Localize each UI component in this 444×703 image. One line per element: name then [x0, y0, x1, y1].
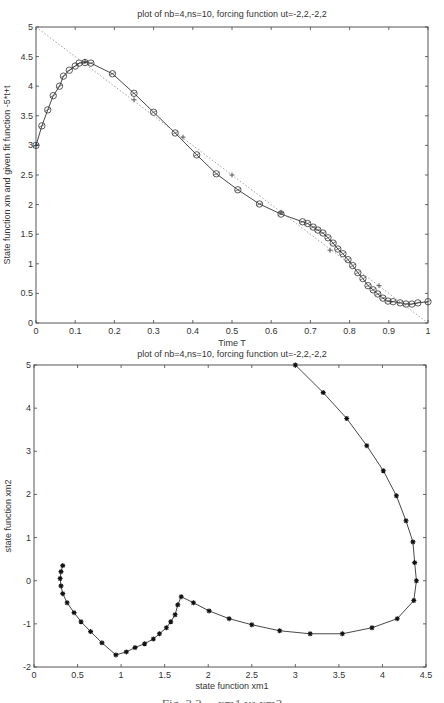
- star-marker: [277, 628, 282, 633]
- star-marker: [142, 641, 147, 646]
- star-marker: [191, 600, 196, 605]
- star-marker: [168, 619, 173, 624]
- star-marker: [60, 591, 65, 596]
- star-marker: [227, 616, 232, 621]
- plus-marker: [377, 283, 382, 288]
- star-marker: [308, 631, 313, 636]
- star-marker: [412, 560, 417, 565]
- plot1-x-label: Time T: [218, 338, 246, 348]
- x-tick-label: 0: [33, 326, 38, 336]
- time-series-plot: plot of nb=4,ns=10, forcing function ut=…: [2, 9, 431, 348]
- star-marker: [173, 612, 178, 617]
- plot1-title: plot of nb=4,ns=10, forcing function ut=…: [137, 9, 326, 19]
- star-marker: [151, 636, 156, 641]
- x-tick-label: 0.8: [343, 326, 356, 336]
- star-marker: [99, 640, 104, 645]
- circle-marker-slash: [151, 111, 157, 114]
- star-marker: [381, 468, 386, 473]
- series-line: [60, 365, 416, 655]
- x-tick-label: 1: [119, 670, 124, 680]
- star-marker: [65, 600, 70, 605]
- star-marker: [157, 631, 162, 636]
- plot1-y-ticks: 00.511.522.533.544.55: [20, 22, 428, 328]
- circle-marker-slash: [325, 236, 331, 239]
- x-tick-label: 0.6: [265, 326, 278, 336]
- star-marker: [59, 569, 64, 574]
- star-marker: [124, 649, 129, 654]
- x-tick-label: 1: [425, 326, 430, 336]
- y-tick-label: 4: [28, 81, 33, 91]
- y-tick-label: 0: [26, 576, 31, 586]
- circle-marker-slash: [350, 264, 356, 267]
- x-tick-label: 0.4: [187, 326, 200, 336]
- x-tick-label: 0.7: [304, 326, 317, 336]
- plot2-axes-box: [34, 365, 426, 667]
- y-tick-label: 4: [26, 403, 31, 413]
- star-marker: [410, 539, 415, 544]
- y-tick-label: 0.5: [20, 288, 33, 298]
- y-tick-label: 3: [28, 140, 33, 150]
- plot2-series: [58, 363, 419, 658]
- x-tick-label: 2.5: [246, 670, 259, 680]
- y-tick-label: 5: [28, 22, 33, 32]
- y-tick-label: 2.5: [20, 170, 33, 180]
- star-marker: [414, 578, 419, 583]
- y-tick-label: 3: [26, 446, 31, 456]
- x-tick-label: 4: [380, 670, 385, 680]
- plot2-y-label: state function xm2: [3, 479, 13, 552]
- y-tick-label: 1: [28, 259, 33, 269]
- plus-marker: [328, 248, 333, 253]
- star-marker: [59, 583, 64, 588]
- circle-marker-slash: [375, 292, 381, 295]
- circle-marker-slash: [335, 248, 341, 251]
- star-marker: [344, 416, 349, 421]
- plot2-y-ticks: -2-1012345: [23, 360, 426, 672]
- star-marker: [179, 594, 184, 599]
- circle-marker-slash: [66, 69, 72, 72]
- series-line: [36, 63, 428, 305]
- plus-marker: [34, 143, 39, 148]
- plot2-title: plot of nb=4,ns=10, forcing function ut=…: [137, 349, 326, 359]
- x-tick-label: 0.5: [71, 670, 84, 680]
- y-tick-label: 2: [28, 200, 33, 210]
- star-marker: [72, 610, 77, 615]
- star-marker: [394, 493, 399, 498]
- star-marker: [207, 608, 212, 613]
- star-marker: [175, 602, 180, 607]
- y-tick-label: -1: [23, 619, 31, 629]
- circle-marker-slash: [345, 258, 351, 261]
- star-marker: [249, 622, 254, 627]
- circle-marker-slash: [360, 277, 366, 280]
- x-tick-label: 4.5: [420, 670, 433, 680]
- star-marker: [60, 563, 65, 568]
- y-tick-label: 1: [26, 533, 31, 543]
- star-marker: [369, 625, 374, 630]
- figure-canvas: plot of nb=4,ns=10, forcing function ut=…: [0, 0, 444, 703]
- x-tick-label: 1.5: [158, 670, 171, 680]
- x-tick-label: 0.2: [108, 326, 121, 336]
- star-marker: [58, 576, 63, 581]
- plus-marker: [132, 97, 137, 102]
- circle-marker-slash: [131, 92, 137, 95]
- circle-marker-slash: [194, 153, 200, 156]
- x-tick-label: 0.5: [226, 326, 239, 336]
- star-marker: [133, 645, 138, 650]
- circle-marker-slash: [340, 252, 346, 255]
- x-tick-label: 2: [206, 670, 211, 680]
- star-marker: [88, 629, 93, 634]
- star-marker: [293, 363, 298, 368]
- y-tick-label: 5: [26, 360, 31, 370]
- star-marker: [395, 616, 400, 621]
- star-marker: [411, 598, 416, 603]
- star-marker: [403, 518, 408, 523]
- x-tick-label: 0.9: [383, 326, 396, 336]
- y-tick-label: -2: [23, 662, 31, 672]
- y-tick-label: 4.5: [20, 52, 33, 62]
- circle-marker-slash: [370, 288, 376, 291]
- y-tick-label: 0: [28, 318, 33, 328]
- plot2-x-label: state function xm1: [195, 681, 268, 691]
- plot1-x-ticks: 00.10.20.30.40.50.60.70.80.91: [33, 27, 430, 336]
- y-tick-label: 1.5: [20, 229, 33, 239]
- circle-marker-slash: [365, 284, 371, 287]
- figure-caption: Fig. 3.3 ... xm1 vs xm2: [0, 694, 444, 703]
